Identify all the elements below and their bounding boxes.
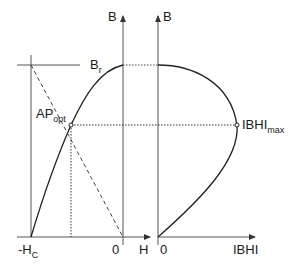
load-line bbox=[31, 65, 123, 237]
h-axis-label: H bbox=[139, 243, 148, 256]
energy-product-curve bbox=[158, 65, 237, 237]
bh-max-marker bbox=[235, 123, 239, 127]
operating-point-label: APopt bbox=[36, 107, 66, 120]
bh-max-label: IBHImax bbox=[242, 118, 284, 131]
remanence-label: Br bbox=[90, 58, 102, 71]
coercivity-label: -HC bbox=[18, 243, 38, 256]
diagram-graphics bbox=[0, 0, 296, 267]
left-b-axis-label: B bbox=[108, 10, 117, 23]
bh-axis-label: IBHI bbox=[233, 243, 258, 256]
left-origin-label: 0 bbox=[112, 243, 119, 256]
operating-point-marker bbox=[69, 123, 73, 127]
bh-energy-product-diagram: B B Br APopt IBHImax -HC 0 H 0 IBHI bbox=[0, 0, 296, 267]
right-origin-label: 0 bbox=[160, 243, 167, 256]
right-b-axis-label: B bbox=[163, 10, 172, 23]
